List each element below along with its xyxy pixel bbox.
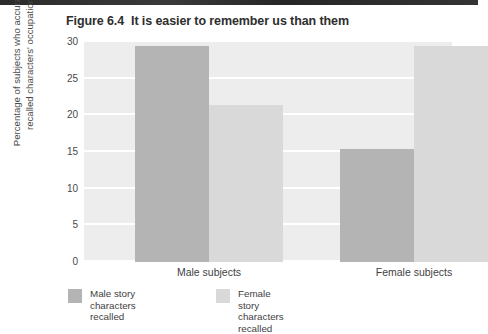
y-tick-label-5: 5 [56,220,78,230]
legend-label: Female story characters recalled [238,288,284,334]
y-tick-label-20: 20 [56,110,78,120]
figure-number: Figure 6.4 [66,14,124,28]
gridline-30 [84,40,452,42]
y-axis-title: Percentage of subjects who accurately re… [1,0,45,177]
bar-female-subjects-female [414,46,488,262]
legend-label: Male story characters recalled [90,288,136,323]
y-tick-label-15: 15 [56,147,78,157]
figure-title-text: It is easier to remember us than them [131,14,349,28]
y-tick-label-0: 0 [56,257,78,267]
legend-swatch-icon [216,289,230,303]
legend-item-male: Male story characters recalled [68,288,136,323]
bar-female-subjects-male [340,149,414,262]
y-axis-title-line-2: recalled characters' occupation [23,0,36,177]
y-tick-label-30: 30 [56,37,78,47]
legend-item-female: Female story characters recalled [216,288,284,334]
x-axis-label-female-subjects: Female subjects [344,266,484,278]
y-tick-label-25: 25 [56,74,78,84]
plot-area [84,42,452,262]
x-axis-label-male-subjects: Male subjects [139,266,279,278]
bar-male-subjects-male [135,46,209,262]
y-tick-label-10: 10 [56,184,78,194]
y-axis-tick-labels: 051015202530 [52,42,78,262]
legend-swatch-icon [68,289,82,303]
bar-male-subjects-female [209,105,283,262]
figure-title: Figure 6.4It is easier to remember us th… [66,14,349,28]
y-axis-title-line-1: Percentage of subjects who accurately [10,0,23,177]
